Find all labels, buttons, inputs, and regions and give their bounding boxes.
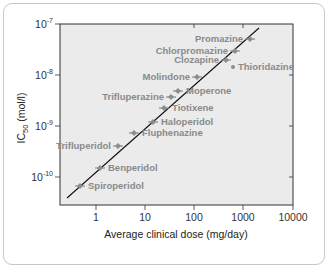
y-tick-label: 10-9 <box>35 119 53 132</box>
label-thioridazine: Thioridazine <box>238 61 294 72</box>
label-trifluperazine: Trifluperazine <box>102 91 164 102</box>
x-tick-label: 10000 <box>278 211 307 223</box>
label-moperone: Moperone <box>186 85 231 96</box>
y-tick-label: 10-7 <box>35 17 53 30</box>
label-haloperidol: Haloperidol <box>161 116 213 127</box>
y-tick-label: 10-10 <box>31 170 53 183</box>
y-tick-label: 10-8 <box>35 68 53 81</box>
label-promazine: Promazine <box>195 33 243 44</box>
label-molindone: Molindone <box>143 71 191 82</box>
x-tick-label: 10 <box>139 211 151 223</box>
point-thioridazine <box>231 65 235 69</box>
label-clozapine: Clozapine <box>174 54 219 65</box>
label-tiotixene: Tiotixene <box>172 102 214 113</box>
label-spiroperidol: Spiroperidol <box>88 180 144 191</box>
x-tick-label: 1 <box>93 211 99 223</box>
label-trifluperidol: Trifluperidol <box>56 140 111 151</box>
y-axis-title: IC50 (mol/l) <box>15 93 30 144</box>
x-tick-label: 100 <box>185 211 203 223</box>
label-benperidol: Benperidol <box>108 162 158 173</box>
x-axis-title: Average clinical dose (mg/day) <box>104 228 247 240</box>
x-tick-label: 1000 <box>231 211 255 223</box>
label-fluphenazine: Fluphenazine <box>142 127 203 138</box>
